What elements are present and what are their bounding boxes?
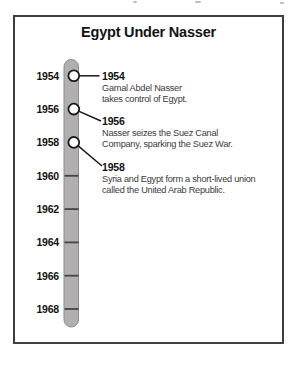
timeline-bar <box>64 60 79 328</box>
event-description-line: called the United Arab Republic. <box>102 185 255 196</box>
cropped-text-fragment <box>280 2 284 4</box>
year-label-1954: 1954 <box>15 69 59 83</box>
event-1956: 1956 Nasser seizes the Suez Canal Compan… <box>102 115 233 150</box>
year-label-1958: 1958 <box>15 135 59 149</box>
year-label-1962: 1962 <box>15 202 59 216</box>
event-1958: 1958 Syria and Egypt form a short-lived … <box>102 161 255 196</box>
event-description-line: Nasser seizes the Suez Canal <box>102 128 233 139</box>
cropped-text-fragment <box>133 1 137 3</box>
year-label-1960: 1960 <box>15 169 59 183</box>
event-year: 1958 <box>102 161 255 173</box>
year-label-1966: 1966 <box>15 269 59 283</box>
event-marker-1956 <box>68 104 79 115</box>
event-year: 1956 <box>102 115 233 127</box>
year-label-1964: 1964 <box>15 235 59 249</box>
event-description-line: Company, sparking the Suez War. <box>102 139 233 150</box>
event-description-line: takes control of Egypt. <box>102 94 187 105</box>
year-label-1956: 1956 <box>15 102 59 116</box>
event-year: 1954 <box>102 70 187 82</box>
event-description-line: Syria and Egypt form a short-lived union <box>102 174 255 185</box>
year-label-1968: 1968 <box>15 302 59 316</box>
event-marker-1958 <box>68 137 79 148</box>
timeline-panel: Egypt Under Nasser 1954 1956 1958 1960 1… <box>13 15 284 344</box>
event-1954: 1954 Gamal Abdel Nasser takes control of… <box>102 70 187 105</box>
event-marker-1954 <box>68 70 79 81</box>
cropped-text-fragment <box>195 1 201 3</box>
event-description-line: Gamal Abdel Nasser <box>102 83 187 94</box>
